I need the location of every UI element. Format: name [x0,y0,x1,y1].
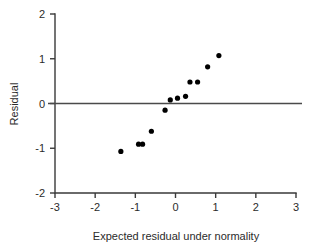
data-point [183,94,188,99]
data-point [118,149,123,154]
x-tick-label: -2 [90,201,100,213]
x-axis-tick-labels: -3-2-10123 [50,201,299,213]
y-tick-label: -2 [35,187,45,199]
data-point [205,64,210,69]
x-tick-label: 2 [253,201,259,213]
x-tick-label: -3 [50,201,60,213]
y-tick-label: -1 [35,142,45,154]
data-point [149,129,154,134]
residual-scatter-plot: -3-2-10123 210-1-2 Expected residual und… [0,0,310,246]
data-point [187,79,192,84]
y-tick-label: 2 [39,8,45,20]
data-point [175,96,180,101]
data-point [162,108,167,113]
x-tick-label: -1 [130,201,140,213]
data-point [195,79,200,84]
tick-marks-group [50,14,296,198]
data-point [168,97,173,102]
data-point [140,142,145,147]
qq-plot-figure: -3-2-10123 210-1-2 Expected residual und… [0,0,310,246]
y-tick-label: 0 [39,98,45,110]
x-tick-label: 3 [293,201,299,213]
y-axis-tick-labels: 210-1-2 [35,8,45,199]
data-point [216,53,221,58]
x-tick-label: 0 [172,201,178,213]
y-axis-title: Residual [8,83,20,126]
y-tick-label: 1 [39,53,45,65]
x-axis-title: Expected residual under normality [93,230,260,242]
x-tick-label: 1 [213,201,219,213]
